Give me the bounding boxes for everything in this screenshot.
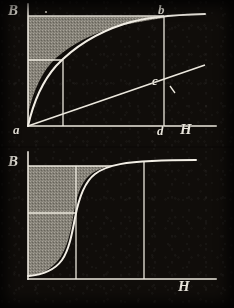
lower-y-axis-label: B (8, 154, 18, 169)
upper-tick-near-c (170, 86, 175, 93)
lower-diagram-svg (0, 148, 234, 308)
figure-root: B a b c d H (0, 0, 234, 308)
lower-x-axis-label: H (178, 279, 190, 294)
plate-speck (45, 11, 47, 13)
upper-x-axis-label: H (180, 122, 192, 137)
lower-diagram-panel: B H (0, 148, 234, 308)
upper-diagram-svg (0, 0, 234, 146)
upper-point-label-d: d (157, 124, 164, 137)
upper-point-label-a: a (13, 123, 20, 136)
upper-point-label-b: b (158, 3, 165, 16)
upper-y-axis-label: B (8, 3, 18, 18)
upper-point-label-c: c (152, 74, 158, 87)
upper-diagram-panel: B a b c d H (0, 0, 234, 146)
upper-shaded-region (28, 16, 164, 126)
upper-permeability-chord (28, 65, 205, 126)
